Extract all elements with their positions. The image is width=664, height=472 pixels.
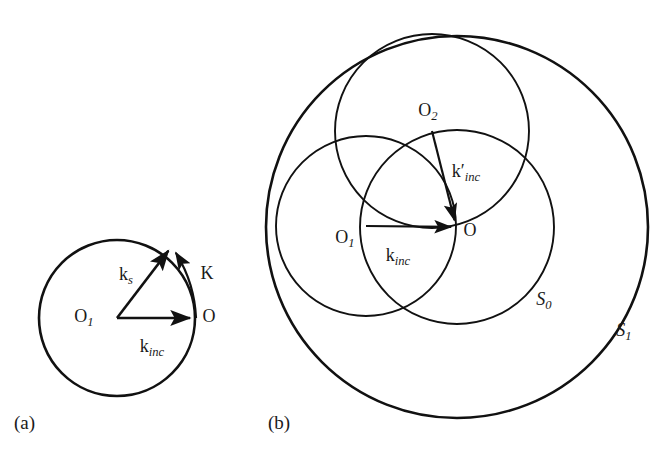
panel-b-point-O1: O1	[335, 227, 354, 250]
S1-outer-sphere	[266, 36, 648, 418]
label-layer: O1OkincksKO1O2Okinck′incS0S1(a)(b)	[14, 100, 632, 434]
vector-K-a	[176, 253, 196, 318]
panel-b-geometry	[266, 34, 648, 418]
panel-a-veclabel-K: K	[201, 263, 214, 283]
panel-tag-b: (b)	[268, 412, 290, 434]
panel-a-geometry	[39, 240, 196, 396]
panel-tag-a: (a)	[14, 412, 35, 434]
panel-a-point-O1: O1	[74, 306, 93, 329]
panel-a-veclabel-k-s: ks	[119, 264, 133, 287]
panel-b-point-O: O	[464, 220, 477, 240]
panel-a-point-O: O	[203, 306, 216, 326]
figure-root: O1OkincksKO1O2Okinck′incS0S1(a)(b)	[0, 0, 664, 472]
vector-k-inc-b	[366, 226, 451, 227]
diagram-canvas: O1OkincksKO1O2Okinck′incS0S1(a)(b)	[0, 0, 664, 472]
panel-b-surface-S1: S1	[616, 320, 631, 343]
panel-b-surface-S0: S0	[536, 289, 552, 312]
panel-b-veclabel-k-prime-inc: k′inc	[452, 161, 481, 184]
panel-a-veclabel-k-inc: kinc	[140, 336, 165, 359]
panel-b-veclabel-k-inc: kinc	[386, 245, 411, 268]
vector-k-s-a	[117, 251, 168, 318]
panel-b-point-O2: O2	[418, 100, 438, 123]
